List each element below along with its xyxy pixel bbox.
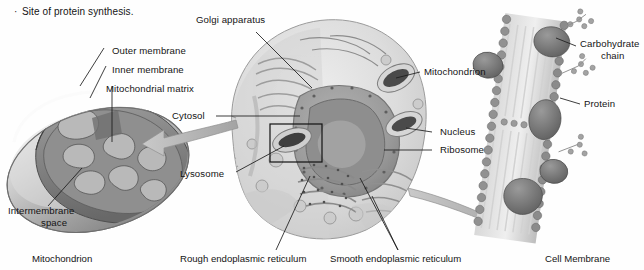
caption-mitochondrion: Mitochondrion bbox=[32, 253, 92, 264]
label-carbohydrate-chain-line2: chain bbox=[601, 50, 624, 61]
label-golgi-apparatus: Golgi apparatus bbox=[196, 14, 265, 25]
diagram-artwork bbox=[0, 0, 644, 270]
label-intermembrane-space-line2: space bbox=[41, 217, 67, 228]
label-cytosol: Cytosol bbox=[172, 110, 205, 121]
label-nucleus: Nucleus bbox=[440, 126, 475, 137]
label-mitochondrion: Mitochondrion bbox=[424, 66, 486, 77]
caption-cell-membrane: Cell Membrane bbox=[545, 253, 610, 264]
label-mitochondrial-matrix: Mitochondrial matrix bbox=[106, 83, 194, 94]
label-protein: Protein bbox=[584, 98, 615, 109]
label-ribosome: Ribosome bbox=[440, 144, 484, 155]
cell-illustration bbox=[218, 20, 434, 240]
label-outer-membrane: Outer membrane bbox=[112, 45, 186, 56]
bullet-marker: · bbox=[14, 6, 17, 17]
label-carbohydrate-chain-line1: Carbohydrate bbox=[580, 38, 639, 49]
label-inner-membrane: Inner membrane bbox=[112, 64, 184, 75]
label-intermembrane-space-line1: Intermembrane bbox=[8, 205, 74, 216]
bullet-note: Site of protein synthesis. bbox=[22, 6, 134, 17]
caption-smooth-er: Smooth endoplasmic reticulum bbox=[330, 253, 461, 264]
caption-rough-er: Rough endoplasmic reticulum bbox=[180, 253, 306, 264]
label-lysosome: Lysosome bbox=[180, 168, 224, 179]
figure-canvas: · Site of protein synthesis. Outer membr… bbox=[0, 0, 644, 270]
